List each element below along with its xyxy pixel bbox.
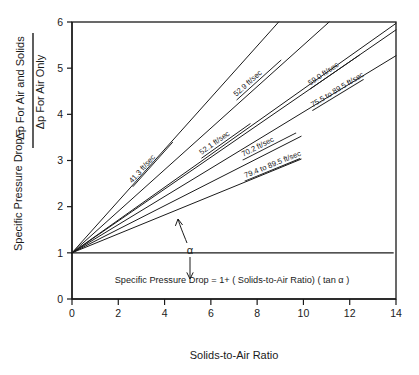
x-tick-label: 4	[162, 307, 168, 319]
chart-svg: 0123456 02468101214 41.3 ft/sec52.9 ft/s…	[0, 0, 419, 375]
y-tick-label: 3	[57, 154, 63, 166]
series-line	[72, 159, 301, 253]
alpha-annotation: α	[175, 219, 193, 279]
series-label-text: 70.2 ft/sec	[240, 135, 275, 159]
series-label-text: 59.0 ft/sec	[306, 60, 340, 87]
y-tick-label: 5	[57, 62, 63, 74]
x-axis-title: Solids-to-Air Ratio	[190, 349, 279, 361]
x-tick-label: 12	[344, 307, 356, 319]
series-line	[72, 136, 301, 253]
x-tick-label: 14	[390, 307, 402, 319]
x-tick-label: 6	[208, 307, 214, 319]
y-axis-title-numerator: Δp For Air and Solids	[14, 36, 26, 140]
x-tick-label: 2	[115, 307, 121, 319]
series-label: 52.9 ft/sec	[230, 53, 281, 100]
y-axis-tick-labels: 0123456	[57, 16, 63, 305]
y-axis-title: Specific Pressure Drop = Δp For Air and …	[12, 33, 46, 251]
series-label-text: 52.9 ft/sec	[232, 68, 264, 98]
x-tick-label: 10	[298, 307, 310, 319]
y-axis: 0123456	[57, 16, 72, 305]
x-axis-tick-labels: 02468101214	[69, 307, 402, 319]
series-lines-group	[72, 22, 396, 253]
y-tick-label: 1	[57, 247, 63, 259]
y-axis-title-denominator: Δp For Air Only	[34, 54, 46, 129]
x-axis-ticks	[72, 299, 396, 305]
y-tick-label: 0	[57, 293, 63, 305]
equation-annotation: Specific Pressure Drop = 1+ ( Solids-to-…	[115, 275, 350, 285]
y-tick-label: 2	[57, 200, 63, 212]
series-line	[72, 22, 279, 253]
alpha-symbol-label: α	[187, 244, 194, 256]
y-tick-label: 4	[57, 108, 63, 120]
x-tick-label: 0	[69, 307, 75, 319]
series-line	[72, 23, 396, 252]
y-tick-label: 6	[57, 16, 63, 28]
y-axis-ticks	[67, 22, 72, 299]
series-labels-group: 41.3 ft/sec52.9 ft/sec52.1 ft/sec59.0 ft…	[126, 47, 366, 187]
series-line	[72, 22, 329, 253]
y-axis-title-prefix: Specific Pressure Drop =	[12, 129, 24, 251]
x-tick-label: 8	[254, 307, 260, 319]
x-axis: 02468101214	[69, 299, 402, 319]
chart-figure: 0123456 02468101214 41.3 ft/sec52.9 ft/s…	[0, 0, 419, 375]
series-label: 41.3 ft/sec	[126, 136, 173, 187]
